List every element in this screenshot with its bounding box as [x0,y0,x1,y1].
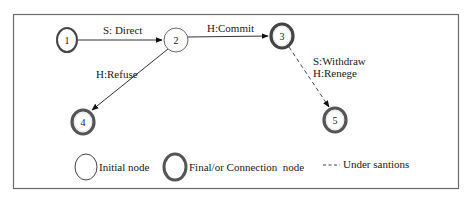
svg-text:1: 1 [65,35,70,46]
node-4: 4 [72,110,94,134]
edge-label-direct: S: Direct [103,24,142,36]
node-3: 3 [271,24,293,48]
legend-final: Final/or Connection node [164,154,304,180]
edge-label-renege: H:Renege [313,67,357,79]
node-1: 1 [57,28,77,52]
edge-label-commit: H:Commit [207,22,254,34]
edge-label-withdraw: S:Withdraw [313,55,366,67]
node-2: 2 [164,28,188,52]
edge-2-3: H:Commit [188,22,268,37]
final-node-icon [164,154,186,180]
svg-text:2: 2 [174,35,179,46]
edge-1-2: S: Direct [78,24,162,40]
svg-text:4: 4 [81,117,86,128]
edge-label-refuse: H:Refuse [96,68,138,80]
edge-2-4: H:Refuse [92,49,168,110]
legend-initial: Initial node [75,154,150,180]
svg-text:5: 5 [333,115,338,126]
svg-text:3: 3 [280,31,285,42]
state-diagram: S: Direct H:Commit H:Refuse S:Withdraw H… [0,0,473,200]
initial-node-icon [75,154,97,180]
node-5: 5 [324,108,346,132]
svg-text:Final/or Connection node: Final/or Connection node [189,161,304,173]
svg-text:Under santions: Under santions [343,158,409,170]
edge-3-5: S:Withdraw H:Renege [289,47,366,107]
legend: Initial node Final/or Connection node Un… [75,154,409,180]
legend-dashed: Under santions [323,158,409,170]
svg-text:Initial node: Initial node [99,161,150,173]
